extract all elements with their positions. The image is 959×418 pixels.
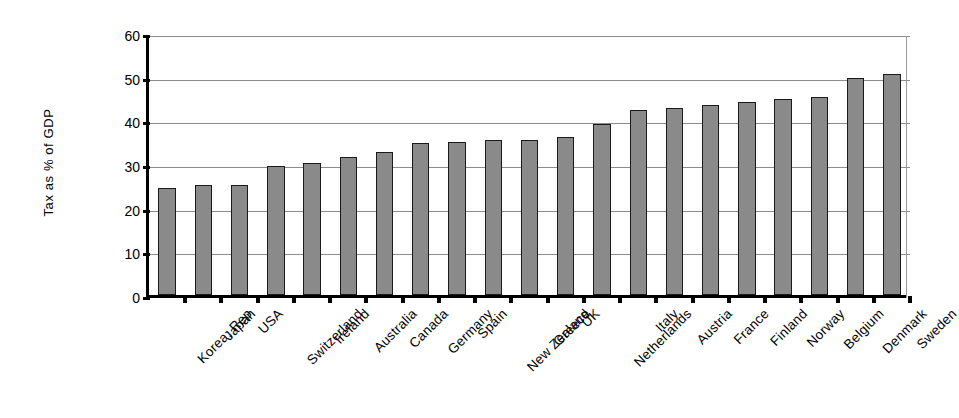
x-axis-label: Finland — [767, 306, 810, 349]
x-axis-label: USA — [255, 306, 286, 337]
x-axis-label: Norway — [804, 306, 848, 350]
x-axis-label: Austria — [694, 306, 735, 347]
x-axis-label: France — [730, 306, 771, 347]
